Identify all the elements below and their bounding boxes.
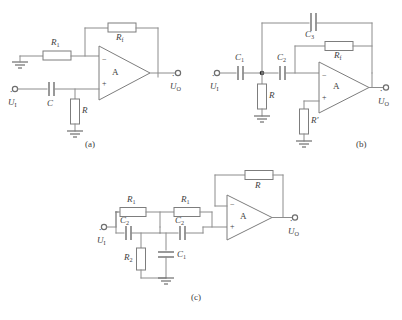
- label-c-R1a: R1: [127, 195, 136, 204]
- label-b-input-phasor: UI: [210, 82, 219, 91]
- circuit-schematic-canvas: [0, 0, 402, 320]
- label-c-C1: C1: [177, 250, 186, 259]
- label-b-C3: C3: [305, 30, 314, 39]
- output-terminal-a: [175, 70, 180, 75]
- resistor-a-R: [71, 99, 80, 124]
- label-b-Rprime: R′: [311, 116, 318, 125]
- circuit-c-graphics: [101, 171, 297, 285]
- opamp-b: [319, 62, 369, 113]
- label-c-inverting-sign: −: [230, 201, 235, 209]
- resistor-a-Rf: [108, 23, 136, 32]
- label-c-output-phasor: UO: [288, 227, 299, 236]
- label-a-output-phasor: UO: [170, 82, 181, 91]
- label-b-Rf: Rf: [334, 51, 342, 60]
- output-terminal-c: [292, 215, 297, 220]
- resistor-a-R1: [43, 51, 71, 60]
- resistor-c-R2: [137, 248, 146, 270]
- label-b-inverting-sign: −: [322, 72, 327, 80]
- label-a-Rf: Rf: [116, 33, 124, 42]
- label-c-C2b: C2: [175, 216, 184, 225]
- caption-c: (c): [191, 293, 201, 302]
- label-c-R1b: R1: [181, 195, 190, 204]
- resistor-b-R: [258, 84, 267, 109]
- label-a-R1: R1: [51, 38, 60, 47]
- output-terminal-b: [383, 85, 388, 90]
- label-b-noninverting-sign: +: [322, 94, 327, 102]
- label-b-R: R: [269, 91, 275, 100]
- figure-root: R1 Rf C R A − + UI UO (a) C1 C2 C3 Rf R …: [0, 0, 402, 320]
- label-c-noninverting-sign: +: [230, 223, 235, 231]
- circuit-a-graphics: [12, 23, 181, 137]
- label-c-R2: R2: [124, 253, 133, 262]
- label-c-C2a: C2: [120, 216, 129, 225]
- caption-b: (b): [356, 140, 367, 149]
- label-c-amp: A: [240, 212, 247, 221]
- label-a-noninverting-sign: +: [102, 80, 107, 88]
- input-terminal-c: [101, 224, 106, 229]
- circuit-b-graphics: [214, 13, 388, 147]
- label-c-R: R: [255, 181, 261, 190]
- input-terminal-b: [214, 70, 219, 75]
- caption-a: (a): [85, 140, 95, 149]
- label-b-amp: A: [333, 82, 340, 91]
- label-a-amp: A: [112, 68, 119, 77]
- label-c-input-phasor: UI: [97, 236, 106, 245]
- resistor-b-Rprime: [300, 109, 309, 134]
- resistor-c-R: [245, 171, 273, 180]
- label-a-R: R: [82, 106, 88, 115]
- label-b-C1: C1: [235, 53, 244, 62]
- label-b-output-phasor: UO: [378, 97, 389, 106]
- label-a-C: C: [47, 99, 53, 108]
- label-a-input-phasor: UI: [8, 98, 17, 107]
- input-terminal-a: [12, 86, 17, 91]
- label-a-inverting-sign: −: [102, 56, 107, 64]
- label-b-C2: C2: [277, 53, 286, 62]
